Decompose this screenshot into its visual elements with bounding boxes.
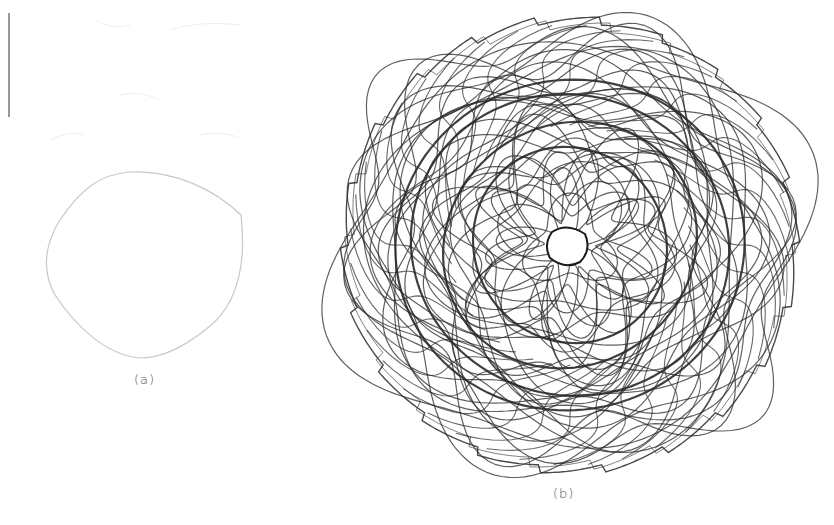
panel-a-curve: [46, 172, 242, 358]
faint-marks: [50, 20, 240, 140]
panel-b-trajectory: [322, 13, 818, 478]
figure-canvas: [0, 0, 834, 525]
caption-a: (a): [134, 372, 155, 387]
caption-b: (b): [553, 486, 574, 501]
